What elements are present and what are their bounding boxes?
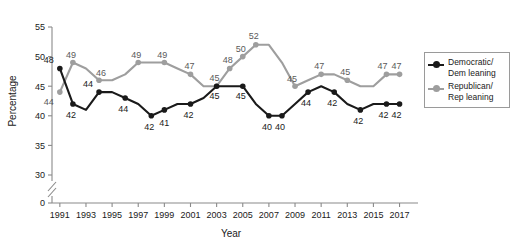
data-point-label: 42 [378, 110, 388, 120]
x-axis-tick-label: 2005 [233, 210, 253, 220]
data-point-label: 40 [275, 122, 285, 132]
data-point-label: 42 [392, 110, 402, 120]
legend-marker-icon [428, 83, 444, 95]
y-axis-tick-label: 55 [35, 22, 45, 32]
x-axis-tick-label: 2001 [180, 210, 200, 220]
data-point [70, 60, 76, 66]
legend-item-label: Democratic/ Dem leaning [448, 57, 496, 78]
data-point-label: 44 [44, 97, 54, 107]
x-axis-tick-label: 1997 [128, 210, 148, 220]
data-point [305, 89, 311, 95]
data-point [240, 54, 246, 60]
data-point [57, 89, 63, 95]
data-point-label: 49 [157, 50, 167, 60]
data-point [162, 107, 168, 113]
data-point [188, 101, 194, 107]
data-point [70, 101, 76, 107]
data-point [135, 60, 141, 66]
legend-marker-icon [428, 59, 444, 71]
x-axis-tick-label: 1991 [50, 210, 70, 220]
data-point-label: 44 [301, 98, 311, 108]
x-axis-tick-label: 1995 [102, 210, 122, 220]
data-point [148, 113, 154, 119]
data-point-label: 42 [144, 122, 154, 132]
data-point-label: 42 [183, 110, 193, 120]
data-point-label: 50 [236, 44, 246, 54]
data-point [384, 101, 390, 107]
y-axis-tick-label: 45 [35, 82, 45, 92]
data-point-label: 45 [287, 74, 297, 84]
data-point-label: 45 [210, 91, 220, 101]
data-point-label: 47 [392, 61, 402, 71]
data-point [397, 101, 403, 107]
data-point [122, 95, 128, 101]
x-axis-tick-label: 2017 [390, 210, 410, 220]
data-point [318, 72, 324, 78]
data-point [331, 89, 337, 95]
chart-legend: Democratic/ Dem leaningRepublican/ Rep l… [424, 52, 510, 108]
data-point [227, 66, 233, 72]
chart-root: 0303540455055Percentage19911993199519971… [0, 0, 515, 251]
x-axis-tick-label: 2011 [311, 210, 330, 220]
data-point-label: 47 [377, 61, 387, 71]
data-point [384, 72, 390, 78]
data-point-label: 41 [159, 118, 169, 128]
data-point-label: 42 [327, 98, 337, 108]
legend-item-republican[interactable]: Republican/ Rep leaning [428, 81, 505, 102]
x-axis-tick-label: 1999 [154, 210, 174, 220]
x-axis-tick-label: 1993 [76, 210, 96, 220]
data-point-label: 47 [184, 61, 194, 71]
data-point [292, 83, 298, 89]
data-point [240, 83, 246, 89]
data-point [358, 107, 364, 113]
series-democratic [57, 66, 402, 119]
data-point-label: 47 [314, 61, 324, 71]
data-point [279, 113, 285, 119]
y-axis-tick-label: 35 [35, 141, 45, 151]
x-axis-tick-label: 2003 [207, 210, 227, 220]
data-point-label: 45 [236, 91, 246, 101]
data-point [344, 77, 350, 83]
data-point-label: 52 [249, 31, 259, 41]
data-point-label: 44 [83, 79, 93, 89]
data-point [214, 83, 220, 89]
legend-item-label: Republican/ Rep leaning [448, 81, 493, 102]
data-point-label: 42 [66, 110, 76, 120]
data-point-label: 45 [340, 67, 350, 77]
data-point-label: 48 [44, 55, 54, 65]
data-point-label: 45 [210, 73, 220, 83]
line-chart: 0303540455055Percentage19911993199519971… [0, 0, 515, 251]
data-point [253, 42, 259, 48]
data-point [96, 77, 102, 83]
x-axis-title: Year [221, 228, 242, 239]
data-point [57, 66, 63, 72]
data-point [188, 72, 194, 78]
data-point [266, 113, 272, 119]
x-axis-tick-label: 2009 [285, 210, 305, 220]
data-point-label: 40 [262, 122, 272, 132]
y-axis-tick-label: 40 [35, 111, 45, 121]
y-axis-tick-label: 0 [40, 198, 45, 208]
x-axis-tick-label: 2013 [337, 210, 357, 220]
legend-item-democratic[interactable]: Democratic/ Dem leaning [428, 57, 505, 78]
x-axis-tick-label: 2007 [259, 210, 279, 220]
data-point-label: 46 [96, 68, 106, 78]
x-axis-tick-label: 2015 [363, 210, 383, 220]
data-point-label: 42 [353, 116, 363, 126]
data-point-label: 49 [131, 50, 141, 60]
y-axis-title: Percentage [7, 75, 18, 127]
data-point [397, 72, 403, 78]
data-point [96, 89, 102, 95]
y-axis-tick-label: 30 [35, 170, 45, 180]
data-point-label: 44 [118, 104, 128, 114]
data-point-label: 48 [223, 55, 233, 65]
data-point-label: 49 [66, 50, 76, 60]
data-point [162, 60, 168, 66]
